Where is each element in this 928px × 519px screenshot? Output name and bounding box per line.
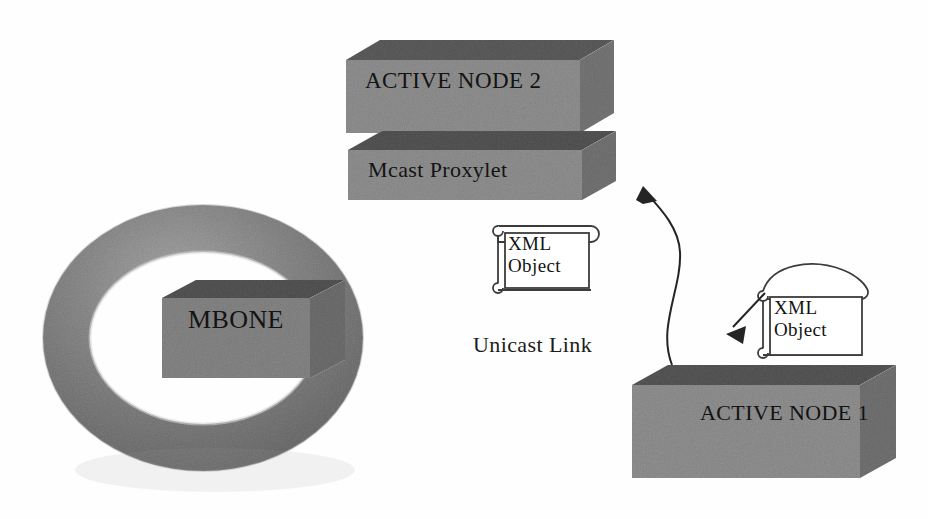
xml-object-upper-label-line1: XML xyxy=(508,233,551,255)
unicast-link-arrow xyxy=(636,186,680,365)
xml-object-lower-label-line1: XML xyxy=(774,297,817,319)
diagram-canvas: ACTIVE NODE 2 Mcast Proxylet MBONE ACTIV… xyxy=(0,0,928,519)
unicast-link-label: Unicast Link xyxy=(473,332,592,358)
xml-emit-arrow xyxy=(726,293,765,344)
mbone-label: MBONE xyxy=(188,305,284,335)
mbone-ring-shadow xyxy=(75,448,355,492)
mcast-proxylet-label: Mcast Proxylet xyxy=(368,157,507,183)
xml-object-lower-label-line2: Object xyxy=(774,319,827,341)
xml-object-upper-label-line2: Object xyxy=(508,255,561,277)
active-node-1-label: ACTIVE NODE 1 xyxy=(700,400,869,426)
active-node-2-label: ACTIVE NODE 2 xyxy=(365,68,541,94)
